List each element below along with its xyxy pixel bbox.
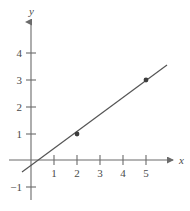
y-tick-label-3: 3 xyxy=(8,75,22,86)
graph-canvas xyxy=(0,0,190,211)
data-point-marker xyxy=(75,132,80,137)
y-tick-label-minus-1: −1 xyxy=(2,182,22,193)
data-point-marker xyxy=(144,78,149,83)
coordinate-plane-figure: y x 1 2 3 4 5 4 3 2 1 −1 xyxy=(0,0,190,211)
y-tick-label-4: 4 xyxy=(8,48,22,59)
y-tick-label-1: 1 xyxy=(8,129,22,140)
x-tick-label-4: 4 xyxy=(120,168,126,179)
x-tick-label-5: 5 xyxy=(143,168,149,179)
y-tick-label-2: 2 xyxy=(8,102,22,113)
y-axis-label: y xyxy=(29,6,34,17)
x-tick-label-2: 2 xyxy=(74,168,80,179)
x-tick-label-3: 3 xyxy=(97,168,103,179)
x-tick-label-1: 1 xyxy=(51,168,57,179)
x-axis-label: x xyxy=(179,155,184,166)
